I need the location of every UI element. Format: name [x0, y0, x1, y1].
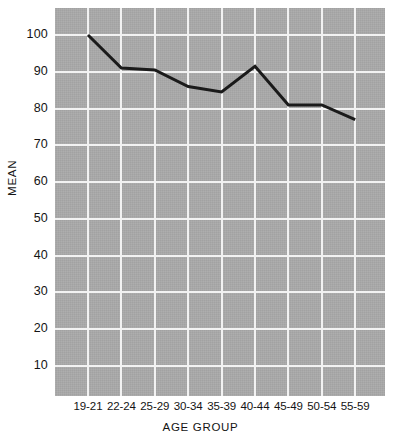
y-axis-tick-label: 90 — [20, 64, 48, 78]
y-axis-tick-label: 30 — [20, 284, 48, 298]
x-axis-title: AGE GROUP — [0, 421, 401, 433]
y-axis-tick-label: 50 — [20, 211, 48, 225]
y-axis-tick-label: 60 — [20, 174, 48, 188]
mean-series-polyline — [88, 35, 355, 120]
y-axis-tick-label: 40 — [20, 248, 48, 262]
y-axis-tick-label: 10 — [20, 358, 48, 372]
y-axis-tick-label: 70 — [20, 137, 48, 151]
plot-area — [55, 8, 385, 396]
y-axis-tick-label: 100 — [20, 27, 48, 41]
y-axis-tick-label: 80 — [20, 101, 48, 115]
x-axis-tick-label: 55-59 — [335, 400, 375, 412]
data-series-line — [55, 8, 385, 396]
y-axis-tick-label: 20 — [20, 321, 48, 335]
line-chart-figure: 100908070605040302010 MEAN 19-2122-2425-… — [0, 0, 401, 445]
y-axis-title: MEAN — [6, 160, 18, 196]
